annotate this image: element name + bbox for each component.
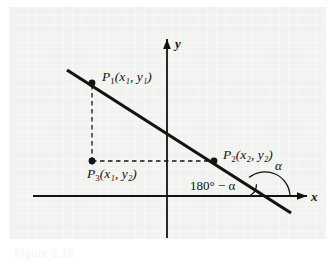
point-p2-base: P	[223, 147, 231, 162]
point-p1-base: P	[102, 69, 110, 84]
point-p3-subscript: 3	[95, 173, 100, 183]
alpha-angle-arc	[249, 172, 290, 196]
point-p2-coords: (x₂, y₂)	[236, 147, 273, 162]
point-p3-dot	[89, 158, 96, 165]
y-axis-arrowhead-icon	[163, 39, 171, 49]
sloped-line	[67, 70, 291, 213]
y-axis	[163, 39, 171, 238]
x-axis-label: x	[311, 190, 318, 203]
point-p3-base: P	[87, 166, 95, 181]
figure-root: y x P1(x₁, y₁) P2(x₂, y₂) P3(x₁, y₂) α 1…	[0, 0, 335, 272]
point-p3-coords: (x₁, y₂)	[100, 166, 137, 181]
point-p1-subscript: 1	[110, 76, 115, 86]
figure-caption: Figure 2.10	[14, 246, 75, 261]
x-axis-arrowhead-icon	[297, 192, 307, 200]
point-p3-label: P3(x₁, y₂)	[87, 167, 137, 181]
point-p2-subscript: 2	[231, 154, 236, 164]
y-axis-label: y	[175, 37, 181, 50]
point-p1-dot	[89, 80, 96, 87]
supplement-angle-label: 180° − α	[190, 179, 235, 192]
point-p2-dot	[211, 158, 218, 165]
point-p1-label: P1(x₁, y₁)	[102, 70, 152, 84]
alpha-angle-label: α	[275, 159, 282, 172]
point-p1-coords: (x₁, y₁)	[115, 69, 152, 84]
figure-drawing	[9, 7, 326, 239]
figure-panel: y x P1(x₁, y₁) P2(x₂, y₂) P3(x₁, y₂) α 1…	[9, 7, 326, 239]
point-p2-label: P2(x₂, y₂)	[223, 148, 273, 162]
